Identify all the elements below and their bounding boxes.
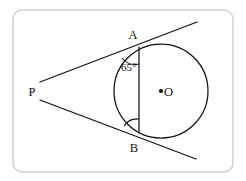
- angle-arc-b: [124, 119, 139, 126]
- label-point-p: P: [29, 85, 36, 99]
- tangent-line-upper: [40, 22, 197, 82]
- label-point-a: A: [128, 28, 137, 42]
- rounded-border: [13, 10, 233, 172]
- geometry-canvas: A B P O 65°: [0, 0, 246, 181]
- label-point-o: O: [164, 85, 173, 99]
- center-point-dot: [159, 89, 163, 93]
- geometry-figure: A B P O 65°: [0, 0, 246, 181]
- label-point-b: B: [130, 141, 138, 155]
- angle-label-65: 65°: [121, 61, 136, 73]
